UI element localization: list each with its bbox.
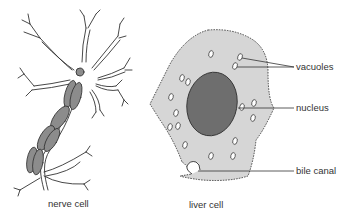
nerve-cell-drawing bbox=[14, 10, 132, 196]
label-nucleus: nucleus bbox=[296, 103, 329, 113]
label-vacuoles: vacuoles bbox=[296, 62, 334, 72]
cell-diagram: vacuoles nucleus bile canal nerve cell l… bbox=[0, 0, 348, 223]
caption-liver-cell: liver cell bbox=[189, 200, 223, 210]
caption-nerve-cell: nerve cell bbox=[48, 199, 89, 209]
liver-cell-drawing bbox=[150, 30, 294, 181]
label-bile-canal: bile canal bbox=[296, 166, 336, 176]
